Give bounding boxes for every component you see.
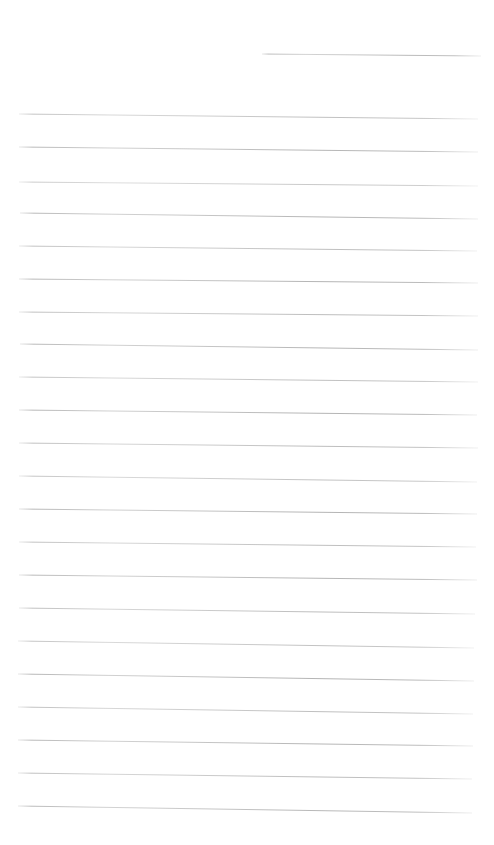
ruled-lines-layer bbox=[0, 0, 494, 845]
paper-page bbox=[0, 0, 494, 845]
page-background bbox=[0, 0, 494, 845]
